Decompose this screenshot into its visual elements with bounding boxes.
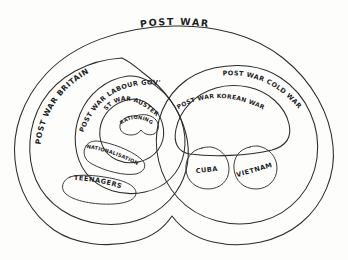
region-post-war-britain (30, 58, 189, 224)
label-cuba: CUBA (195, 165, 218, 175)
label-post-war-korean-war: POST WAR KOREAN WAR (175, 92, 266, 111)
region-post-war-cold-war (156, 65, 317, 223)
region-post-war-outer (14, 26, 333, 245)
label-post-war: POST WAR (139, 16, 210, 30)
label-vietnam: VIETNAM (235, 161, 273, 179)
label-nationalisation: NATIONALISATION (86, 143, 140, 166)
diagram-canvas: POST WAR POST WAR BRITAIN POST WAR LABOU… (0, 0, 348, 260)
label-post-war-austerity: POST WAR AUSTERITY (0, 0, 161, 117)
post-war-set-diagram: POST WAR POST WAR BRITAIN POST WAR LABOU… (0, 0, 348, 260)
